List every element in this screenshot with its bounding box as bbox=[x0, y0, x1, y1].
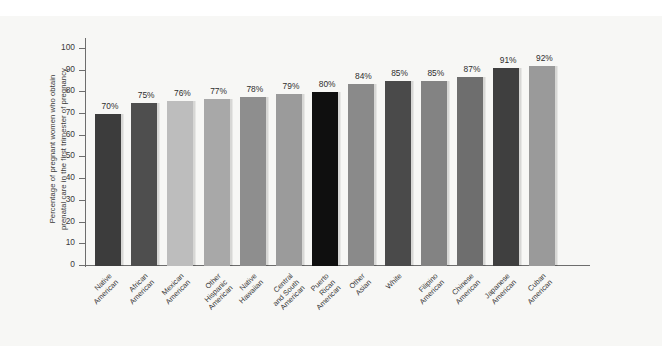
bar-series: 70%75%76%77%78%79%80%84%85%85%87%91%92% bbox=[85, 38, 590, 266]
y-axis-tick-label: 100 bbox=[61, 42, 75, 52]
y-axis-tick-label: 0 bbox=[70, 259, 75, 269]
y-axis-tick-label: 20 bbox=[66, 216, 75, 226]
bar[interactable]: 70% bbox=[95, 114, 121, 266]
y-axis-title-line-1: Percentage of pregnant women who obtain bbox=[47, 29, 58, 269]
bar-slot: 70% bbox=[93, 38, 123, 266]
bar-value-label: 78% bbox=[240, 84, 270, 94]
y-axis-tick-label: 60 bbox=[66, 129, 75, 139]
bar-slot: 78% bbox=[238, 38, 268, 266]
y-axis-tick-label: 70 bbox=[66, 107, 75, 117]
bar-slot: 84% bbox=[346, 38, 376, 266]
bar-slot: 77% bbox=[202, 38, 232, 266]
bar-value-label: 84% bbox=[348, 71, 378, 81]
bar[interactable]: 85% bbox=[421, 81, 447, 266]
bar[interactable]: 79% bbox=[276, 94, 302, 266]
bar-value-label: 77% bbox=[204, 86, 234, 96]
bar-value-label: 80% bbox=[312, 79, 342, 89]
bar-value-label: 91% bbox=[493, 55, 523, 65]
bar[interactable]: 76% bbox=[167, 101, 193, 266]
bar[interactable]: 77% bbox=[204, 99, 230, 266]
bar-slot: 79% bbox=[274, 38, 304, 266]
bar[interactable]: 75% bbox=[131, 103, 157, 266]
bar-slot: 76% bbox=[165, 38, 195, 266]
y-axis-tick-label: 30 bbox=[66, 194, 75, 204]
bar-value-label: 85% bbox=[385, 68, 415, 78]
bar-value-label: 75% bbox=[131, 90, 161, 100]
y-axis-tick-label: 40 bbox=[66, 172, 75, 182]
bar[interactable]: 80% bbox=[312, 92, 338, 266]
bar-slot: 80% bbox=[310, 38, 340, 266]
y-axis-tick-label: 80 bbox=[66, 85, 75, 95]
y-axis-tick-label: 10 bbox=[66, 237, 75, 247]
bar-value-label: 79% bbox=[276, 81, 306, 91]
bar-slot: 92% bbox=[527, 38, 557, 266]
bar-value-label: 70% bbox=[95, 101, 125, 111]
y-axis-tick-label: 50 bbox=[66, 150, 75, 160]
bar-slot: 75% bbox=[129, 38, 159, 266]
bar[interactable]: 84% bbox=[348, 84, 374, 266]
bar-value-label: 76% bbox=[167, 88, 197, 98]
bar-slot: 85% bbox=[383, 38, 413, 266]
bar[interactable]: 91% bbox=[493, 68, 519, 266]
bar-value-label: 87% bbox=[457, 64, 487, 74]
bar[interactable]: 92% bbox=[529, 66, 555, 266]
bar-slot: 85% bbox=[419, 38, 449, 266]
chart-figure: Percentage of pregnant women who obtain … bbox=[0, 0, 662, 363]
bar-slot: 87% bbox=[455, 38, 485, 266]
bar[interactable]: 85% bbox=[385, 81, 411, 266]
bar[interactable]: 87% bbox=[457, 77, 483, 266]
y-axis-tick-label: 90 bbox=[66, 64, 75, 74]
bar-value-label: 85% bbox=[421, 68, 451, 78]
plot-area: 0102030405060708090100 70%75%76%77%78%79… bbox=[85, 38, 590, 266]
bar-slot: 91% bbox=[491, 38, 521, 266]
bar-value-label: 92% bbox=[529, 53, 559, 63]
bar[interactable]: 78% bbox=[240, 97, 266, 266]
